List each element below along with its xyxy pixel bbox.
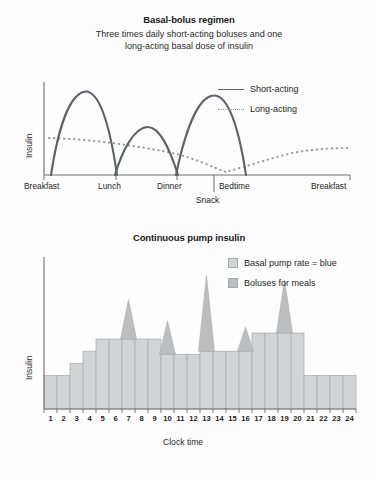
top-legend-label-short-acting: Short-acting: [250, 84, 299, 94]
bar-hour-9: [148, 339, 161, 409]
bar-hour-22: [317, 376, 330, 409]
bar-hour-14: [213, 351, 226, 409]
bar-hour-4: [83, 351, 96, 409]
bar-hour-23: [330, 376, 343, 409]
top-xtick-dinner: Dinner: [157, 181, 182, 191]
bottom-legend-label-basal: Basal pump rate = blue: [244, 258, 337, 268]
top-legend-label-long-acting: Long-acting: [250, 104, 297, 114]
bolus-spike-hour-10: [159, 321, 175, 354]
bar-hour-19: [278, 333, 291, 409]
bottom-xtick-label-24: 24: [339, 414, 360, 423]
top-legend-item-long-acting: Long-acting: [218, 104, 297, 114]
panel-continuous-pump: Continuous pump insulin Insulin Basal pu…: [0, 232, 378, 477]
bar-hour-12: [187, 354, 200, 409]
bolus-spike-hour-16: [237, 327, 253, 351]
top-xtick-breakfast-1: Breakfast: [24, 181, 59, 191]
top-xtick-lunch: Lunch: [98, 181, 121, 191]
bottom-chart-x-axis-label: Clock time: [163, 437, 203, 447]
bar-hour-21: [304, 376, 317, 409]
bar-hour-17: [252, 333, 265, 409]
panel-basal-bolus: Basal-bolus regimen Three times daily sh…: [0, 0, 378, 232]
bar-hour-15: [226, 351, 239, 409]
bottom-legend-item-basal: Basal pump rate = blue: [228, 258, 337, 268]
basal-swatch-icon: [228, 258, 238, 268]
top-chart-plot: [0, 0, 378, 232]
bottom-tick-group: [44, 409, 356, 413]
long-acting-curve: [49, 138, 348, 172]
bar-hour-8: [135, 339, 148, 409]
bar-hour-24: [343, 376, 356, 409]
bar-hour-18: [265, 333, 278, 409]
top-legend-item-short-acting: Short-acting: [218, 84, 299, 94]
top-xtick-bedtime: Bedtime: [219, 181, 250, 191]
bar-hour-1: [44, 376, 57, 409]
bar-hour-7: [122, 339, 135, 409]
figure-root: Basal-bolus regimen Three times daily sh…: [0, 0, 378, 477]
bar-hour-10: [161, 354, 174, 409]
bar-hour-13: [200, 351, 213, 409]
bolus-spike-hour-7: [120, 300, 136, 340]
bar-hour-5: [96, 339, 109, 409]
top-xtick-breakfast-2: Breakfast: [311, 181, 346, 191]
bolus-spike-hour-13: [198, 275, 214, 351]
short-acting-line-icon: [218, 89, 244, 90]
bar-hour-3: [70, 363, 83, 409]
bar-hour-20: [291, 333, 304, 409]
bolus-swatch-icon: [228, 278, 238, 288]
bar-hour-16: [239, 351, 252, 409]
top-xtick-snack: Snack: [196, 195, 219, 205]
bar-hour-11: [174, 354, 187, 409]
bottom-legend-label-bolus: Boluses for meals: [244, 278, 316, 288]
short-acting-peak-lunch: [115, 127, 178, 175]
bar-hour-6: [109, 339, 122, 409]
long-acting-line-icon: [218, 109, 244, 110]
bottom-legend-item-bolus: Boluses for meals: [228, 278, 316, 288]
bar-hour-2: [57, 376, 70, 409]
short-acting-peak-breakfast: [51, 92, 117, 175]
